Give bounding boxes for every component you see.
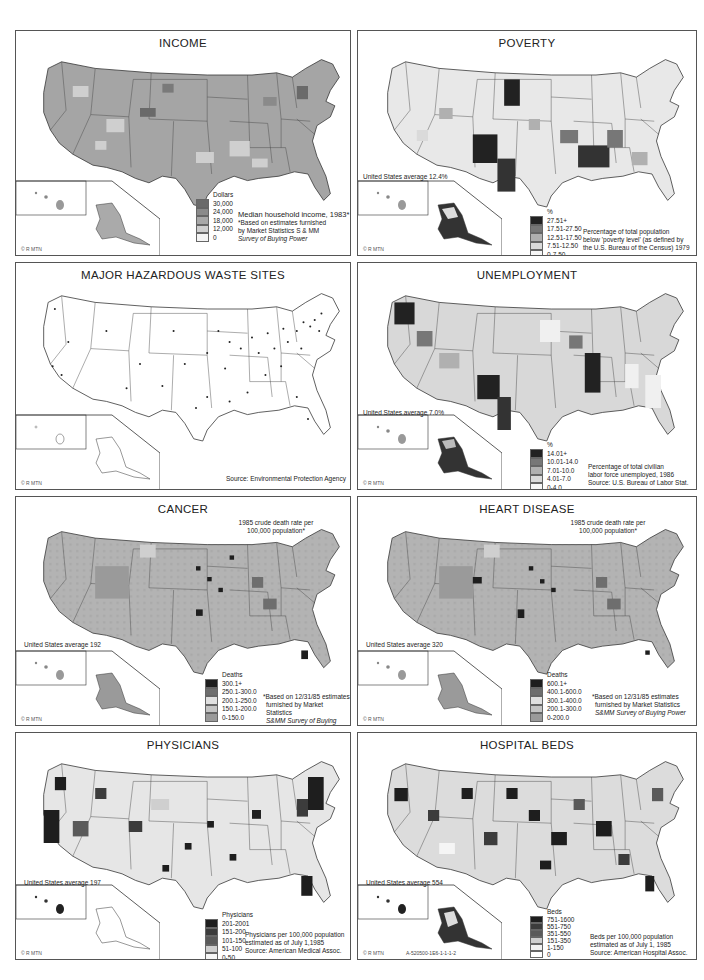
legend-label: 400.1-600.0 — [547, 688, 582, 695]
note-line: Percentage of total population — [583, 228, 690, 236]
legend-label: 12,000 — [213, 225, 233, 232]
cancer-legend-heading: Deaths — [222, 671, 257, 678]
cancer-legend: Deaths 300.1+ 250.1-300.0 200.1-250.0 15… — [205, 671, 257, 722]
legend-swatch — [530, 916, 543, 923]
legend-label: 18,000 — [213, 217, 233, 224]
legend-swatch — [196, 216, 209, 225]
poverty-alaska-hawaii-inset — [358, 179, 502, 255]
legend-row: 0-7.50 — [530, 250, 582, 256]
physicians-legend-heading: Physicians — [222, 911, 253, 918]
legend-swatch — [205, 953, 218, 960]
income-copyright: © R MTN — [21, 246, 42, 252]
note-line: Percentage of total civilian — [588, 463, 688, 471]
legend-swatch — [205, 688, 218, 697]
note-line: estimated as of July 1,1985 — [245, 939, 344, 947]
hospital-beds-legend-heading: Beds — [547, 908, 574, 915]
note-line: furnished by Market Statistics — [263, 701, 350, 717]
hospital-beds-copyright: © R MTN — [363, 950, 384, 956]
note-line: Median household income, 1983* — [238, 211, 349, 219]
legend-label: 551-750 — [547, 923, 571, 930]
legend-swatch — [530, 233, 543, 242]
legend-swatch — [205, 945, 218, 954]
unemployment-copyright: © R MTN — [363, 480, 384, 486]
income-note: Median household income, 1983* *Based on… — [238, 211, 349, 243]
legend-row: 200.1-250.0 — [205, 696, 257, 705]
legend-swatch — [530, 475, 543, 484]
poverty-legend: % 27.51+ 17.51-27.50 12.51-17.50 7.51-12… — [530, 208, 582, 256]
hazardous-waste-source: Source: Environmental Protection Agency — [226, 475, 346, 482]
cancer-alaska-hawaii-inset — [16, 649, 160, 725]
legend-swatch — [205, 705, 218, 714]
poverty-copyright: © R MTN — [363, 246, 384, 252]
unemployment-legend: % 14.01+ 10.01-14.0 7.01-10.0 4.01-7.0 0… — [530, 441, 578, 490]
legend-swatch — [530, 923, 543, 930]
hospital-beds-alaska-hawaii-inset — [358, 883, 502, 959]
legend-label: 7.01-10.0 — [547, 467, 574, 474]
legend-label: 300.1-400.0 — [547, 697, 582, 704]
legend-swatch — [530, 679, 543, 688]
note-line: furnished by Market Statistics — [592, 701, 686, 709]
physicians-note: Physicians per 100,000 population estima… — [245, 931, 344, 955]
hospital-beds-legend: Beds 751-1600 551-750 351-550 151-350 1-… — [530, 908, 574, 958]
note-line: Physicians per 100,000 population — [245, 931, 344, 939]
unemployment-note: Percentage of total civilian labor force… — [588, 463, 688, 487]
note-line: *Based on estimates furnished — [238, 219, 349, 227]
heart-disease-alaska-hawaii-inset — [358, 649, 502, 725]
note-line: *Based on 12/31/85 estimates — [263, 693, 350, 701]
legend-swatch — [530, 466, 543, 475]
legend-row: 4.01-7.0 — [530, 475, 578, 484]
legend-label: 751-1600 — [547, 916, 574, 923]
legend-swatch — [530, 944, 543, 951]
heart-disease-legend-heading: Deaths — [547, 671, 582, 678]
physicians-map-panel: PHYSICIANS United States average 197 © R… — [15, 732, 351, 960]
legend-row: 200.1-300.0 — [530, 705, 582, 714]
legend-label: 151-200 — [222, 928, 246, 935]
note-line: Beds per 100,000 population — [590, 933, 688, 941]
legend-label: 17.51-27.50 — [547, 225, 582, 232]
note-line: by Market Statistics S & MM — [238, 227, 349, 235]
legend-label: 101-150 — [222, 937, 246, 944]
legend-swatch — [196, 233, 209, 242]
legend-swatch — [530, 696, 543, 705]
unemployment-alaska-hawaii-inset — [358, 413, 502, 489]
cancer-map-panel: CANCER 1985 crude death rate per 100,000… — [15, 496, 351, 726]
unemployment-legend-heading: % — [547, 441, 578, 448]
note-line: the U.S. Bureau of the Census) 1979 — [583, 244, 690, 252]
note-line: S&MM Survey of Buying Power — [266, 717, 336, 726]
legend-row: 151-350 — [530, 937, 574, 944]
legend-swatch — [196, 208, 209, 217]
hospital-beds-note: Beds per 100,000 population estimated as… — [590, 933, 688, 957]
legend-label: 150.1-200.0 — [222, 705, 257, 712]
heart-disease-legend: Deaths 600.1+ 400.1-600.0 300.1-400.0 20… — [530, 671, 582, 722]
cancer-note: *Based on 12/31/85 estimates furnished b… — [263, 693, 350, 726]
unemployment-map-panel: UNEMPLOYMENT United States average 7.0% … — [357, 262, 697, 490]
legend-swatch — [530, 242, 543, 251]
legend-label: 0-4.0 — [547, 484, 562, 490]
note-line: Source: American Hospital Assoc. — [590, 949, 688, 957]
legend-label: 10.01-14.0 — [547, 458, 578, 465]
income-map-panel: INCOME © R MTN Dollars 30,000 24,000 18,… — [15, 30, 351, 256]
legend-label: 1-150 — [547, 944, 564, 951]
legend-swatch — [530, 705, 543, 714]
hospital-beds-reference-code: A-520500-1E6-1-1-1-2 — [406, 950, 456, 956]
legend-row: 12.51-17.50 — [530, 233, 582, 242]
hazardous-waste-copyright: © R MTN — [21, 480, 42, 486]
legend-label: 51-100 — [222, 945, 242, 952]
legend-label: 250.1-300.0 — [222, 688, 257, 695]
legend-row: 0-4.0 — [530, 483, 578, 490]
legend-swatch — [196, 199, 209, 208]
income-alaska-hawaii-inset — [16, 179, 160, 255]
heart-disease-note: *Based on 12/31/85 estimates furnished b… — [592, 693, 686, 717]
legend-swatch — [530, 483, 543, 490]
heart-disease-copyright: © R MTN — [363, 716, 384, 722]
legend-row: 30,000 — [196, 199, 233, 208]
legend-label: 7.51-12.50 — [547, 242, 578, 249]
legend-row: 600.1+ — [530, 679, 582, 688]
poverty-map-panel: POVERTY United States average 12.4% © R … — [357, 30, 697, 256]
legend-row: 300.1-400.0 — [530, 696, 582, 705]
legend-swatch — [530, 449, 543, 458]
legend-label: 201-2001 — [222, 920, 249, 927]
legend-label: 200.1-250.0 — [222, 697, 257, 704]
legend-row: 0 — [196, 233, 233, 242]
note-line: below 'poverty level' (as defined by — [583, 236, 690, 244]
